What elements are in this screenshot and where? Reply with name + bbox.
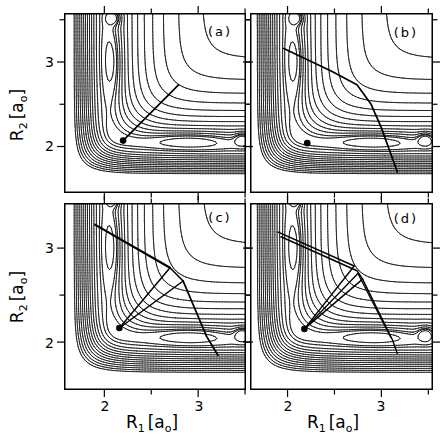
- trajectory-path: [305, 274, 358, 329]
- x-axis-title-left: R1[ao]: [97, 412, 207, 435]
- trajectory-path: [119, 281, 183, 328]
- stationary-point-dot: [116, 325, 123, 332]
- panel-c-plot: [64, 203, 246, 390]
- stationary-point-dot: [304, 140, 311, 147]
- y-tick-label-2-bottom: 2: [36, 334, 54, 352]
- x-axis-title-right: R1[ao]: [278, 412, 388, 435]
- figure-pes-contour-panels: (a) (b) (c) (d) 3 2 3 2 2 3 2 3 R1[ao] R…: [0, 0, 443, 448]
- y-axis-title-top: R2[ao]: [7, 89, 30, 141]
- panel-b-label: (b): [383, 25, 429, 40]
- trajectory-path: [119, 268, 170, 328]
- trajectory-path: [123, 85, 178, 141]
- trajectory-path: [358, 274, 391, 338]
- panel-d-label: (d): [383, 211, 429, 226]
- panel-b-plot: [250, 13, 433, 193]
- y-axis-title-bottom: R2[ao]: [7, 271, 30, 323]
- panel-d-plot: [250, 203, 433, 390]
- panel-a-plot: [64, 13, 246, 193]
- y-tick-label-2-top: 2: [36, 137, 54, 155]
- stationary-point-dot: [301, 326, 308, 333]
- panel-a-label: (a): [197, 24, 243, 39]
- y-tick-label-3-top: 3: [36, 53, 54, 71]
- panel-c-label: (c): [197, 210, 243, 225]
- y-tick-label-3-bottom: 3: [36, 239, 54, 257]
- stationary-point-dot: [120, 137, 127, 144]
